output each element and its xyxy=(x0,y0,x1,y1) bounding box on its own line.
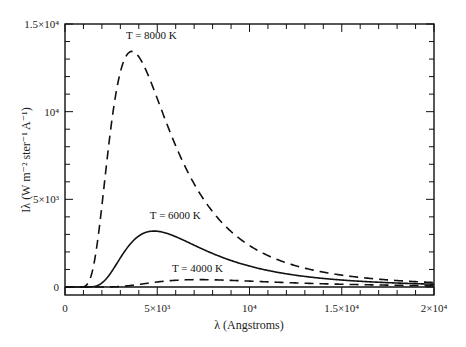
x-tick-label: 0 xyxy=(62,302,68,314)
x-tick-label: 5×10³ xyxy=(144,302,171,314)
curve-label: T = 8000 K xyxy=(126,29,177,41)
planck-curves xyxy=(65,51,434,287)
x-tick-label: 10⁴ xyxy=(242,302,257,314)
x-axis-ticks: 05×10³10⁴1.5×10⁴2×10⁴ xyxy=(62,24,447,314)
y-tick-label: 1.5×10⁴ xyxy=(24,18,59,30)
blackbody-spectrum-chart: 05×10³10⁴1.5×10⁴2×10⁴ 05×10³10⁴1.5×10⁴ T… xyxy=(0,0,466,347)
curve-4000k xyxy=(65,280,434,287)
y-tick-label: 0 xyxy=(54,281,60,293)
x-axis-title: λ (Angstroms) xyxy=(214,318,283,332)
curve-labels: T = 8000 KT = 6000 KT = 4000 K xyxy=(126,29,223,274)
curve-label: T = 6000 K xyxy=(150,209,201,221)
x-tick-label: 1.5×10⁴ xyxy=(324,302,359,314)
plot-frame xyxy=(65,24,434,295)
axes-box xyxy=(65,24,434,295)
curve-label: T = 4000 K xyxy=(172,262,223,274)
y-tick-label: 5×10³ xyxy=(33,193,60,205)
y-tick-label: 10⁴ xyxy=(44,106,59,118)
y-axis-title: Iλ (W m⁻² ster⁻¹ A⁻¹) xyxy=(19,107,33,212)
y-axis-ticks: 05×10³10⁴1.5×10⁴ xyxy=(24,18,434,293)
x-tick-label: 2×10⁴ xyxy=(421,302,448,314)
curve-8000k xyxy=(65,51,434,287)
curve-6000k xyxy=(65,231,434,287)
